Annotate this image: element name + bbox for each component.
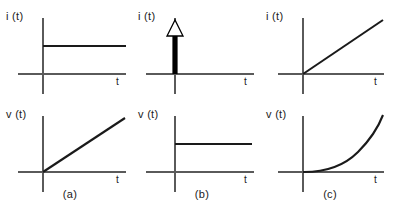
y-axis-label: i (t) [266, 10, 283, 22]
x-axis-label: t [374, 76, 377, 87]
y-axis-label: v (t) [266, 108, 286, 120]
caption-b: (b) [136, 188, 268, 200]
panel-a-voltage: v (t) t [4, 104, 136, 199]
panel-b-current: i (t) t [136, 6, 268, 101]
panel-c-voltage: v (t) t [264, 104, 396, 199]
caption-c: (c) [264, 188, 396, 200]
x-axis-label: t [374, 174, 377, 185]
x-axis-label: t [244, 174, 247, 185]
ramp-trace [303, 20, 383, 74]
panel-c-current: i (t) t [264, 6, 396, 101]
y-axis-label: i (t) [138, 10, 155, 22]
panel-b-voltage: v (t) t [136, 104, 268, 199]
x-axis-label: t [116, 76, 119, 87]
y-axis-label: v (t) [138, 108, 158, 120]
x-axis-label: t [244, 76, 247, 87]
x-axis-label: t [116, 174, 119, 185]
y-axis-label: v (t) [6, 108, 26, 120]
ramp-trace [43, 118, 125, 172]
exponential-trace [303, 115, 383, 172]
waveform-figure: i (t) t i (t) t i (t) t v (t) t [0, 0, 396, 211]
impulse-arrowhead-icon [167, 20, 183, 36]
panel-b-current-plot [136, 6, 268, 101]
y-axis-label: i (t) [6, 10, 23, 22]
caption-a: (a) [4, 188, 136, 200]
panel-a-current: i (t) t [4, 6, 136, 101]
